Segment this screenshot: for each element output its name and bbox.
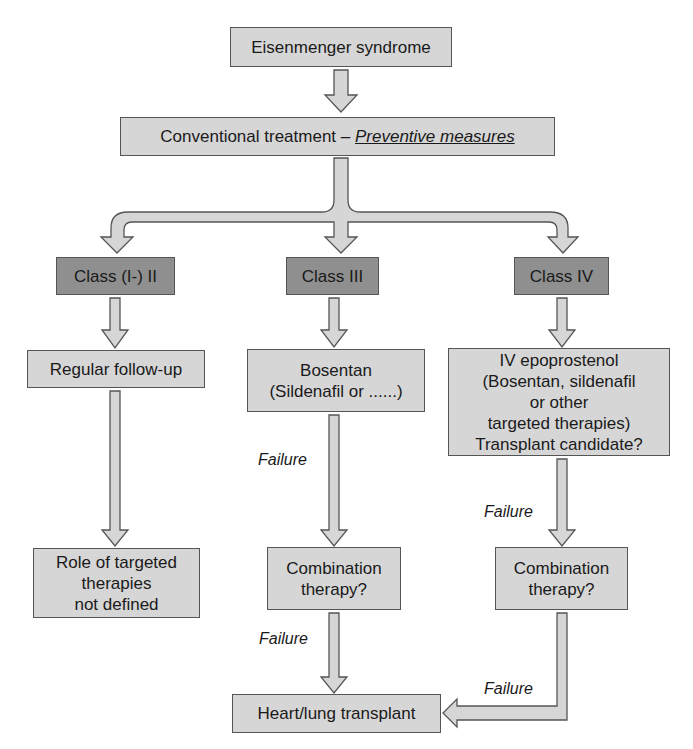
node-conventional-treatment: Conventional treatment – Preventive meas… <box>120 117 555 156</box>
line: (Sildenafil or ......) <box>269 381 402 402</box>
node-class-4: Class IV <box>514 257 609 295</box>
line: (Bosentan, sildenafil <box>475 371 643 392</box>
preventive-measures-text: Preventive measures <box>355 127 515 146</box>
node-label: Eisenmenger syndrome <box>251 37 431 58</box>
line: targeted therapies) <box>475 413 643 434</box>
arrow-class4-to-epoprostenol <box>549 298 575 347</box>
arrow-root-to-conventional <box>325 70 357 112</box>
line: Combination <box>286 558 381 579</box>
node-label: IV epoprostenol (Bosentan, sildenafil or… <box>475 350 643 455</box>
node-label: Regular follow-up <box>50 359 182 380</box>
line: therapy? <box>286 579 381 600</box>
line: not defined <box>56 594 177 615</box>
arrow-epoprostenol-to-combination <box>549 459 575 546</box>
node-class-3: Class III <box>286 257 379 295</box>
arrow-conventional-branch <box>101 158 578 253</box>
node-label: Class (I-) II <box>74 266 157 287</box>
node-label: Conventional treatment – Preventive meas… <box>160 126 514 147</box>
edge-label-failure-combination-right: Failure <box>484 680 533 698</box>
line: Transplant candidate? <box>475 434 643 455</box>
line: Role of targeted <box>56 552 177 573</box>
line: therapies <box>56 573 177 594</box>
edge-label-failure-epoprostenol: Failure <box>484 503 533 521</box>
arrow-combination-to-transplant <box>321 613 347 693</box>
arrow-combination-right-to-transplant <box>443 613 567 727</box>
node-label: Combination therapy? <box>286 558 381 600</box>
arrow-class2-to-regular <box>102 298 128 348</box>
line: or other <box>475 392 643 413</box>
edge-label-failure-combination-mid: Failure <box>259 630 308 648</box>
node-label: Class III <box>302 266 363 287</box>
node-regular-follow-up: Regular follow-up <box>27 350 205 388</box>
node-eisenmenger-syndrome: Eisenmenger syndrome <box>230 27 452 67</box>
node-combination-therapy-middle: Combination therapy? <box>267 547 401 610</box>
line: Combination <box>514 558 609 579</box>
arrow-regular-to-role <box>102 391 128 546</box>
edge-label-failure-bosentan: Failure <box>258 451 307 469</box>
node-role-of-targeted-therapies: Role of targeted therapies not defined <box>33 548 200 618</box>
line: therapy? <box>514 579 609 600</box>
conventional-text: Conventional treatment – <box>160 127 355 146</box>
node-bosentan: Bosentan (Sildenafil or ......) <box>247 349 425 412</box>
node-label: Class IV <box>530 266 593 287</box>
arrow-class3-to-bosentan <box>321 298 347 347</box>
node-label: Heart/lung transplant <box>258 703 416 724</box>
node-label: Bosentan (Sildenafil or ......) <box>269 360 402 402</box>
node-label: Combination therapy? <box>514 558 609 600</box>
line: Bosentan <box>269 360 402 381</box>
node-class-1-2: Class (I-) II <box>56 257 175 295</box>
node-combination-therapy-right: Combination therapy? <box>495 547 628 610</box>
node-iv-epoprostenol: IV epoprostenol (Bosentan, sildenafil or… <box>448 348 670 456</box>
node-label: Role of targeted therapies not defined <box>56 552 177 615</box>
node-heart-lung-transplant: Heart/lung transplant <box>232 694 441 733</box>
arrow-bosentan-to-combination <box>321 415 347 546</box>
line: IV epoprostenol <box>475 350 643 371</box>
